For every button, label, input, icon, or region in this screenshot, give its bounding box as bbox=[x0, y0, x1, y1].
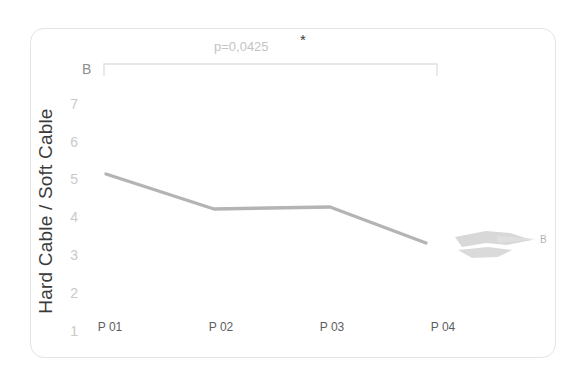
p-value-annotation: p=0,0425 bbox=[214, 39, 269, 54]
significance-bracket-path bbox=[104, 64, 437, 76]
figure-panel: Hard Cable / Soft Cable 7 6 5 4 3 2 1 P … bbox=[0, 0, 588, 379]
panel-letter-left: B bbox=[82, 61, 91, 77]
series-polyline bbox=[106, 174, 426, 243]
significance-star: * bbox=[300, 32, 306, 47]
panel-letter-right: B bbox=[540, 234, 547, 245]
smudge-shape-lower bbox=[458, 247, 512, 258]
scan-smudge-artifact bbox=[455, 231, 536, 258]
data-series-line bbox=[106, 174, 426, 243]
chart-canvas bbox=[0, 0, 588, 379]
significance-bracket bbox=[104, 64, 437, 76]
